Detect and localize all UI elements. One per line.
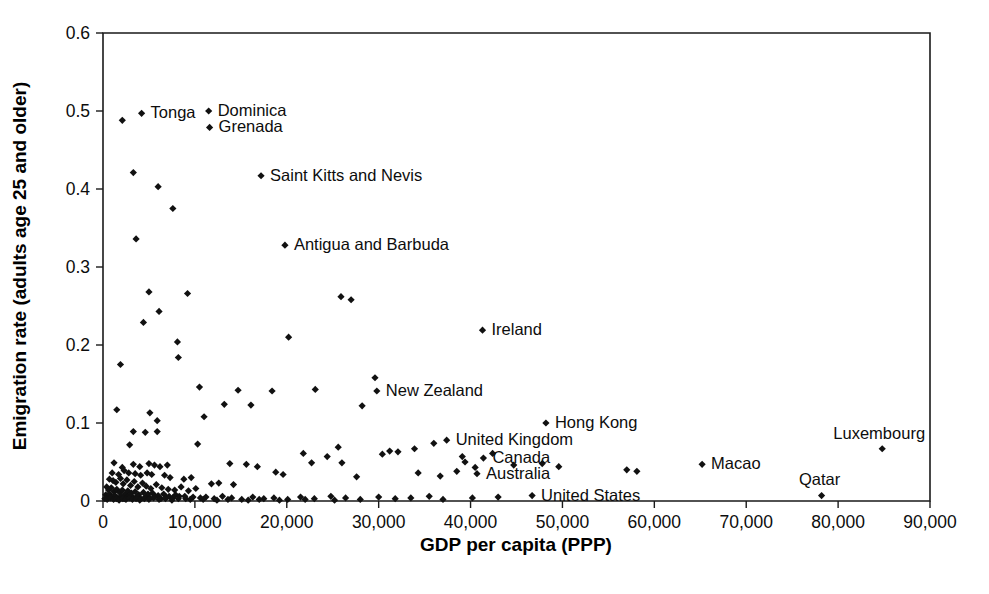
data-point — [132, 235, 139, 242]
point-label: Antigua and Barbuda — [294, 235, 450, 253]
x-tick-label: 20,000 — [260, 512, 314, 532]
data-point — [529, 492, 536, 499]
data-point — [272, 469, 279, 476]
x-tick-label: 60,000 — [628, 512, 682, 532]
y-tick-label: 0.1 — [66, 413, 90, 433]
point-annotations: TongaDominicaGrenadaSaint Kitts and Nevi… — [151, 101, 925, 504]
point-label: New Zealand — [386, 381, 483, 399]
data-point — [215, 479, 222, 486]
point-label: Tonga — [151, 103, 197, 121]
point-label: United States — [541, 486, 640, 504]
data-point — [479, 327, 486, 334]
data-point — [165, 486, 172, 493]
data-point — [221, 401, 228, 408]
point-label: Macao — [711, 454, 761, 472]
data-point — [415, 469, 422, 476]
data-point — [379, 451, 386, 458]
data-point — [348, 296, 355, 303]
data-point — [110, 459, 117, 466]
y-tick-label: 0.3 — [66, 257, 90, 277]
point-label: United Kingdom — [456, 430, 573, 448]
point-label: Saint Kitts and Nevis — [270, 166, 422, 184]
data-point — [132, 470, 139, 477]
data-point — [188, 474, 195, 481]
data-point — [473, 470, 480, 477]
x-tick-label: 30,000 — [352, 512, 406, 532]
data-point — [268, 387, 275, 394]
data-point — [117, 361, 124, 368]
data-point — [430, 440, 437, 447]
data-point — [280, 471, 287, 478]
data-point — [542, 419, 549, 426]
data-point — [308, 459, 315, 466]
data-point — [234, 387, 241, 394]
data-point — [247, 401, 254, 408]
data-point — [155, 183, 162, 190]
data-point — [338, 459, 345, 466]
data-point — [254, 463, 261, 470]
data-point — [137, 472, 144, 479]
point-label: Dominica — [218, 101, 288, 119]
data-point — [359, 402, 366, 409]
data-point — [126, 441, 133, 448]
x-tick-label: 80,000 — [811, 512, 865, 532]
data-point — [300, 450, 307, 457]
data-point — [155, 308, 162, 315]
data-point — [140, 319, 147, 326]
data-point — [386, 447, 393, 454]
data-point — [633, 468, 640, 475]
data-point — [437, 472, 444, 479]
x-tick-label: 10,000 — [168, 512, 222, 532]
data-point — [145, 460, 152, 467]
data-point — [353, 473, 360, 480]
data-point — [357, 496, 364, 503]
data-point — [394, 448, 401, 455]
data-point — [194, 440, 201, 447]
data-point — [324, 453, 331, 460]
data-point — [130, 169, 137, 176]
x-tick-label: 70,000 — [719, 512, 773, 532]
x-axis-title: GDP per capita (PPP) — [420, 534, 612, 555]
point-label: Grenada — [219, 117, 284, 135]
emigration-gdp-scatter-figure: TongaDominicaGrenadaSaint Kitts and Nevi… — [0, 0, 989, 594]
data-point — [879, 445, 886, 452]
data-point — [180, 476, 187, 483]
data-point — [205, 107, 212, 114]
data-point — [156, 463, 163, 470]
data-point — [375, 494, 382, 501]
data-point — [208, 480, 215, 487]
point-label: Qatar — [799, 470, 841, 488]
data-point — [136, 463, 143, 470]
data-point — [142, 429, 149, 436]
y-tick-label: 0.5 — [66, 101, 90, 121]
data-point — [130, 461, 137, 468]
data-point — [130, 428, 137, 435]
y-tick-label: 0.6 — [66, 23, 90, 43]
data-point — [109, 469, 116, 476]
data-point — [206, 124, 213, 131]
data-point — [174, 338, 181, 345]
data-point — [154, 428, 161, 435]
data-point — [192, 485, 199, 492]
y-tick-label: 0.2 — [66, 335, 90, 355]
data-point — [184, 290, 191, 297]
data-point — [113, 406, 120, 413]
data-point — [154, 417, 161, 424]
data-point — [411, 445, 418, 452]
data-point — [312, 386, 319, 393]
data-point — [257, 172, 264, 179]
data-point — [281, 242, 288, 249]
data-point — [178, 483, 185, 490]
data-point — [230, 481, 237, 488]
data-point — [285, 334, 292, 341]
data-point — [555, 463, 562, 470]
data-point — [439, 496, 446, 503]
y-axis-title: Emigration rate (adults age 25 and older… — [9, 82, 30, 450]
data-point — [335, 444, 342, 451]
data-point — [138, 110, 145, 117]
data-point — [443, 437, 450, 444]
data-point — [337, 293, 344, 300]
data-point — [699, 461, 706, 468]
data-point — [145, 288, 152, 295]
x-tick-label: 90,000 — [903, 512, 957, 532]
